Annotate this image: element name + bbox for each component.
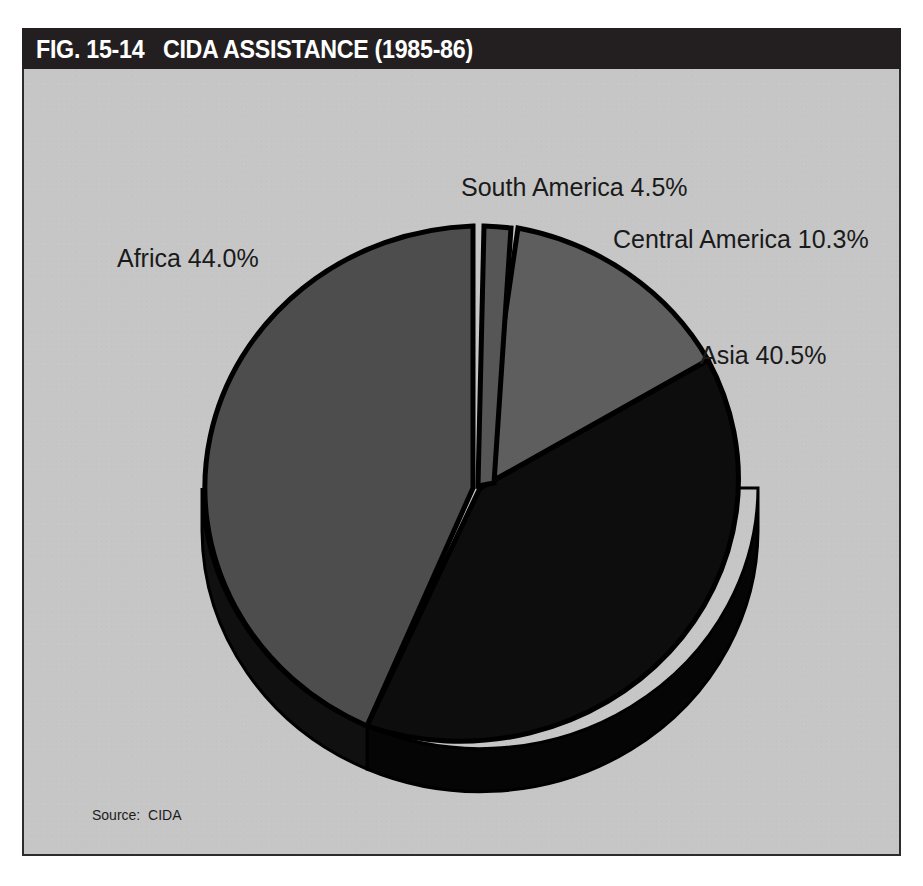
slice-label-south-america: South America 4.5% [461,173,688,202]
slice-label-africa: Africa 44.0% [117,244,259,273]
figure-container: FIG. 15-14 CIDA ASSISTANCE (1985-86) Sou… [22,28,901,856]
slice-label-asia: Asia 40.5% [700,341,826,370]
page-title: FIG. 15-14 CIDA ASSISTANCE (1985-86) [36,35,473,64]
chart-plot-area: South America 4.5% Central America 10.3%… [22,69,901,856]
slice-label-central-america: Central America 10.3% [613,225,869,254]
source-note: Source: CIDA [92,807,181,823]
figure-title-bar: FIG. 15-14 CIDA ASSISTANCE (1985-86) [22,28,901,69]
